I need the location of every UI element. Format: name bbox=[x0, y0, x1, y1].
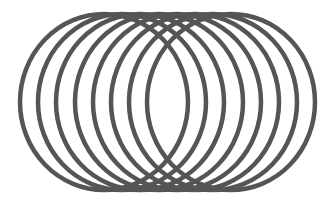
ellipse-outline-1 bbox=[20, 14, 188, 190]
ellipse-outline-6 bbox=[111, 14, 279, 190]
ellipse-outline-3 bbox=[56, 14, 224, 190]
overlapping-ellipses-figure bbox=[0, 0, 334, 201]
ellipse-outline-2 bbox=[38, 14, 206, 190]
ellipse-outline-4 bbox=[75, 14, 243, 190]
ellipse-outline-5 bbox=[93, 14, 261, 190]
ellipse-outline-8 bbox=[147, 14, 315, 190]
ellipse-outline-7 bbox=[129, 14, 297, 190]
